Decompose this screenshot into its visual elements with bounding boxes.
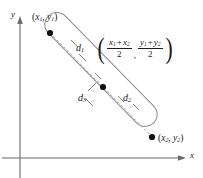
endpoint-1-dot <box>47 30 53 36</box>
distance-d1-label: d1 <box>76 43 84 54</box>
y-axis <box>17 16 23 178</box>
x-axis <box>2 155 186 161</box>
y-midpoint-fraction: y1+y2 2 <box>138 37 163 59</box>
figure-canvas <box>0 0 203 178</box>
x-axis-label: x <box>190 151 194 160</box>
endpoint-1-label: (x1, y1) <box>32 13 57 23</box>
distance-d2-label: d2 <box>123 93 131 104</box>
x-midpoint-fraction: x1+x2 2 <box>107 37 132 59</box>
formula-separator: , <box>133 50 137 61</box>
midpoint-formula-figure: y x (x1, y1) (x2, y2) d1 d3 d2 ( x1+x2 2… <box>0 0 203 178</box>
distance-d3-label: d3 <box>78 93 86 104</box>
y-axis-label: y <box>11 10 15 19</box>
midpoint-dot <box>100 84 106 90</box>
midpoint-formula-label: ( x1+x2 2 , y1+y2 2 ) <box>96 36 174 61</box>
endpoint-2-dot <box>149 134 155 140</box>
formula-open-paren: ( <box>97 36 104 61</box>
formula-close-paren: ) <box>165 36 172 61</box>
capsule-outline <box>40 8 162 132</box>
endpoint-2-label: (x2, y2) <box>158 134 183 144</box>
